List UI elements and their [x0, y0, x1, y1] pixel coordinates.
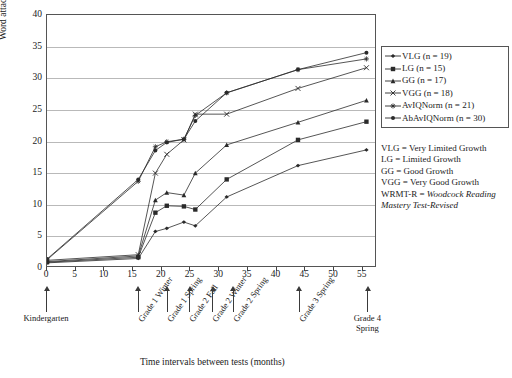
y-tick-label: 10 — [0, 199, 42, 209]
data-point-marker — [165, 204, 169, 208]
series-line-GG — [47, 100, 366, 261]
legend-item-VGG[interactable]: VGG (n = 18) — [385, 87, 505, 99]
legend-item-AvIQNorm[interactable]: AvIQNorm (n = 21) — [385, 100, 505, 112]
y-tick-label: 35 — [0, 41, 42, 51]
data-point-marker — [136, 177, 140, 181]
x-tick-mark — [304, 267, 305, 271]
legend-marker-cross-icon — [385, 88, 401, 98]
legend-label: VLG (n = 19) — [402, 52, 452, 61]
data-point-marker — [296, 68, 300, 72]
legend-marker-square-icon — [385, 64, 401, 74]
category-label: Grade 4Spring — [344, 314, 390, 334]
x-tick-mark — [161, 267, 162, 271]
y-tick-label: 5 — [0, 230, 42, 240]
data-point-marker — [164, 152, 169, 157]
y-tick-label: 20 — [0, 136, 42, 146]
series-line-AvIQNorm — [47, 59, 366, 260]
category-arrow — [189, 290, 190, 312]
note-line: VLG = Very Limited Growth — [381, 143, 509, 154]
data-point-marker — [153, 210, 157, 214]
data-point-marker — [296, 120, 301, 125]
series-line-VLG — [47, 150, 366, 263]
data-point-marker — [182, 220, 186, 224]
x-tick-mark — [46, 267, 47, 271]
category-arrow — [46, 290, 47, 312]
note-line: VGG = Very Good Growth — [381, 177, 509, 188]
data-point-marker — [391, 66, 395, 70]
series-line-AbAvIQNorm — [47, 53, 366, 259]
data-point-marker — [153, 198, 158, 203]
legend-item-LG[interactable]: LG (n = 15) — [385, 62, 505, 74]
plot-area — [46, 14, 376, 267]
note-line: LG = Limited Growth — [381, 154, 509, 165]
y-tick-label: 25 — [0, 104, 42, 114]
data-point-marker — [364, 56, 369, 61]
chart-root: Word attack raw score on WRMT-R 05101520… — [0, 0, 512, 378]
data-point-marker — [225, 91, 229, 95]
y-tick-label: 15 — [0, 167, 42, 177]
legend: VLG (n = 19)LG (n = 15)GG (n = 17)VGG (n… — [381, 46, 509, 128]
note-line: GG = Good Growth — [381, 166, 509, 177]
legend-marker-diamond-icon — [385, 51, 401, 61]
legend-label: GG (n = 17) — [402, 76, 446, 85]
x-tick-mark — [362, 267, 363, 271]
y-tick-label: 40 — [0, 9, 42, 19]
y-axis-label: Word attack raw score on WRMT-R — [0, 0, 8, 40]
data-point-marker — [182, 204, 186, 208]
x-tick-mark — [103, 267, 104, 271]
data-point-marker — [364, 51, 368, 55]
category-arrow — [212, 290, 213, 312]
data-point-marker — [391, 116, 395, 120]
note-wrmt: WRMT-R = Woodcock Reading Mastery Test-R… — [381, 189, 509, 212]
data-point-marker — [391, 54, 395, 58]
x-tick-mark — [75, 267, 76, 271]
data-point-marker — [182, 137, 186, 141]
category-arrow — [138, 290, 139, 312]
data-point-marker — [364, 65, 369, 70]
data-point-marker — [364, 148, 368, 152]
category-arrow — [233, 290, 234, 312]
x-tick-mark — [276, 267, 277, 271]
data-point-marker — [193, 207, 197, 211]
data-point-marker — [296, 138, 300, 142]
data-point-marker — [165, 140, 169, 144]
legend-marker-triangle-icon — [385, 76, 401, 86]
legend-item-GG[interactable]: GG (n = 17) — [385, 75, 505, 87]
x-axis-label: Time intervals between tests (months) — [140, 357, 285, 367]
data-point-marker — [165, 226, 169, 230]
category-arrow — [299, 290, 300, 312]
legend-label: AbAvIQNorm (n = 30) — [402, 114, 485, 123]
x-tick-mark — [132, 267, 133, 271]
data-point-marker — [364, 98, 369, 103]
x-tick-mark — [247, 267, 248, 271]
data-point-marker — [364, 119, 368, 123]
x-tick-mark — [189, 267, 190, 271]
legend-marker-circle-icon — [385, 113, 401, 123]
data-point-marker — [224, 143, 229, 148]
data-point-marker — [193, 119, 197, 123]
category-arrow — [367, 290, 368, 312]
legend-item-AbAvIQNorm[interactable]: AbAvIQNorm (n = 30) — [385, 112, 505, 124]
legend-marker-star-icon — [385, 101, 401, 111]
data-point-marker — [193, 113, 198, 118]
y-tick-label: 30 — [0, 72, 42, 82]
series-line-LG — [47, 122, 366, 263]
legend-label: AvIQNorm (n = 21) — [402, 101, 474, 110]
data-point-marker — [390, 103, 395, 108]
data-point-marker — [296, 86, 301, 91]
data-point-marker — [296, 164, 300, 168]
data-point-marker — [153, 149, 157, 153]
legend-label: LG (n = 15) — [402, 64, 445, 73]
x-tick-mark — [218, 267, 219, 271]
legend-label: VGG (n = 18) — [402, 89, 453, 98]
category-arrow — [167, 290, 168, 312]
data-point-marker — [153, 230, 157, 234]
data-point-marker — [225, 177, 229, 181]
category-label: Grade 3 Spring — [297, 275, 335, 324]
legend-notes: VLG = Very Limited GrowthLG = Limited Gr… — [381, 143, 509, 211]
legend-item-VLG[interactable]: VLG (n = 19) — [385, 50, 505, 62]
series-line-VGG — [47, 68, 366, 261]
x-tick-mark — [333, 267, 334, 271]
data-series-layer — [47, 15, 375, 266]
category-label: Kindergarten — [23, 314, 69, 324]
